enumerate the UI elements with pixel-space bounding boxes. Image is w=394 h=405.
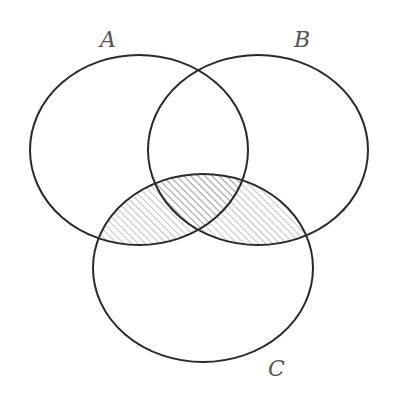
hatch-b-and-c (148, 55, 368, 245)
shaded-region (30, 55, 368, 245)
set-b-label: B (293, 27, 310, 52)
set-a-label: A (98, 27, 116, 52)
venn-diagram: A B C (0, 0, 394, 405)
set-c-label: C (268, 356, 285, 381)
